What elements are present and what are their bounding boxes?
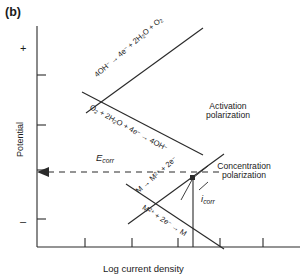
concentration-polarization-label: Concentration polarization xyxy=(217,162,271,179)
x-axis-ticks xyxy=(85,238,263,247)
activation-polarization-line2: polarization xyxy=(206,110,250,120)
y-axis-positive-sign: + xyxy=(20,43,26,54)
ecorr-subscript: corr xyxy=(102,157,114,164)
ecorr-label: Ecorr xyxy=(96,153,114,164)
curve-reduction-oxygen xyxy=(82,92,203,155)
polarization-diagram-figure: (b) Potential Log current density + – Ac… xyxy=(0,0,306,279)
ecorr-arrowhead xyxy=(37,167,49,177)
y-axis-negative-sign: – xyxy=(20,216,26,227)
y-axis-ticks xyxy=(37,75,46,219)
panel-label: (b) xyxy=(5,6,21,19)
activation-polarization-label: Activation polarization xyxy=(206,102,250,119)
intersection-marker xyxy=(190,175,195,180)
x-axis-title: Log current density xyxy=(103,264,184,274)
icorr-label: icorr xyxy=(201,194,215,205)
icorr-leader-line xyxy=(199,182,208,190)
concentration-polarization-line2: polarization xyxy=(222,170,266,180)
y-axis-title: Potential xyxy=(16,104,25,176)
icorr-subscript: corr xyxy=(203,198,215,205)
